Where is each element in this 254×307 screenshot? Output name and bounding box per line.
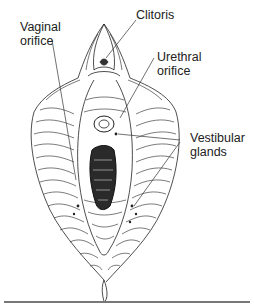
leader-vaginal-orifice <box>52 40 76 180</box>
label-vaginal-orifice: Vaginal orifice <box>20 20 61 48</box>
bottom-rule <box>4 301 250 303</box>
label-urethral-orifice: Urethral orifice <box>157 50 201 78</box>
label-clitoris: Clitoris <box>136 8 174 22</box>
label-vestibular-glands: Vestibular glands <box>190 131 245 159</box>
